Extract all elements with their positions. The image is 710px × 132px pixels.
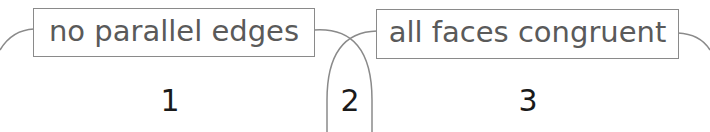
region-2-number: 2 (330, 84, 370, 118)
region-3-number: 3 (508, 84, 548, 118)
region-1-number: 1 (150, 84, 190, 118)
set-label-all-faces-congruent: all faces congruent (376, 9, 679, 59)
set-label-no-parallel-edges: no parallel edges (33, 8, 315, 57)
venn-diagram: no parallel edges all faces congruent 1 … (0, 0, 710, 132)
